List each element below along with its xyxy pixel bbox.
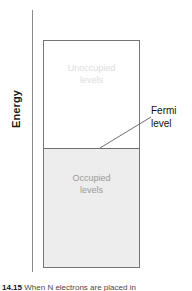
energy-band-box: Unoccupied levels Occupied levels	[43, 40, 140, 268]
fermi-level-figure: Energy Unoccupied levels Occupied levels…	[0, 0, 192, 291]
unoccupied-levels-label: Unoccupied levels	[44, 63, 139, 86]
fermi-level-line	[44, 148, 139, 149]
occupied-levels-label: Occupied levels	[44, 173, 139, 196]
fermi-level-label: Fermi level	[151, 104, 192, 130]
occupied-levels-region	[44, 148, 139, 267]
energy-axis-label: Energy	[10, 69, 22, 149]
energy-axis-line	[32, 10, 33, 272]
unoccupied-levels-region	[44, 41, 139, 148]
figure-caption: 14.15 When N electrons are placed in	[2, 283, 192, 291]
figure-caption-number: 14.15	[2, 283, 22, 291]
figure-caption-text: When N electrons are placed in	[24, 283, 136, 291]
